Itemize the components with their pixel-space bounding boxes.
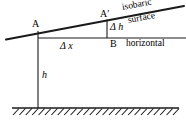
label-delta-h: Δ h <box>110 22 123 32</box>
label-point-b: B <box>110 39 117 49</box>
label-delta-x: Δ x <box>60 41 73 51</box>
label-point-a: A <box>32 19 39 29</box>
diagram-canvas <box>0 0 186 123</box>
label-horizontal: horizontal <box>126 39 165 49</box>
ground-hatching <box>13 109 179 116</box>
label-point-a-prime: A′ <box>100 9 109 19</box>
isobaric-surface-diagram: A A′ B Δ h Δ x h isobaric surface horizo… <box>0 0 186 123</box>
label-height-h: h <box>42 70 47 80</box>
